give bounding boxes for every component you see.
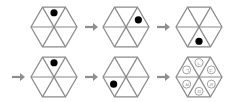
black-dot [135, 16, 142, 23]
black-dot [110, 81, 117, 88]
sector-label-top-left: ㄱ [183, 66, 191, 74]
label-text: ㄱ [185, 68, 189, 73]
sector-label-bottom: ㅁ [195, 87, 203, 95]
row-1-arrow-2 [157, 23, 170, 31]
arrow-head-icon [93, 23, 98, 31]
label-text: ㅁ [197, 89, 201, 94]
label-text: ㄷ [209, 68, 213, 73]
black-dot [50, 59, 57, 66]
label-text: ㅂ [185, 82, 189, 87]
row-2-hexagon-3: ㄴㄷㄹㅁㅂㄱ [176, 57, 222, 97]
sector-label-top-right: ㄷ [207, 66, 215, 74]
row-1-arrow-1 [85, 23, 98, 31]
sector-label-bottom-right: ㄹ [207, 80, 215, 88]
sector-label-top: ㄴ [195, 59, 203, 67]
black-dot [50, 9, 57, 16]
row-2-arrow-2 [157, 73, 170, 81]
row-2-arrow-1 [85, 73, 98, 81]
arrow-head-icon [165, 73, 170, 81]
arrow-head-icon [20, 73, 25, 81]
row-2-hexagon-1 [31, 57, 77, 97]
row-1-hexagon-3 [176, 7, 222, 47]
row-2-hexagon-2 [103, 57, 149, 97]
arrow-head-icon [165, 23, 170, 31]
sector-label-bottom-left: ㅂ [183, 80, 191, 88]
black-dot [195, 38, 202, 45]
row-1-hexagon-2 [103, 7, 149, 47]
label-text: ㄹ [209, 82, 213, 87]
hexagon-sequence-diagram: ㄴㄷㄹㅁㅂㄱ [0, 0, 235, 102]
arrow-head-icon [93, 73, 98, 81]
row-2-leading-arrow [12, 73, 25, 81]
row-1-hexagon-1 [31, 7, 77, 47]
label-text: ㄴ [197, 61, 201, 66]
